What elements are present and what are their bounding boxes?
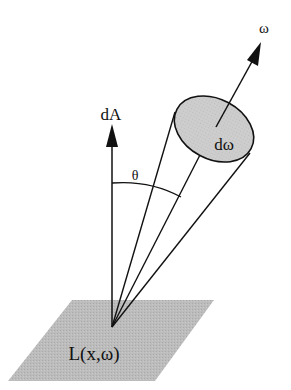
solid-angle-label: dω (214, 135, 234, 154)
arrowhead-icon (247, 42, 261, 66)
solid-angle-disk (163, 83, 265, 175)
angle-label: θ (132, 168, 139, 183)
radiance-diagram: dA θ dω ω L(x,ω) (0, 0, 291, 390)
direction-label: ω (259, 20, 269, 36)
surface-patch (8, 300, 214, 381)
normal-label: dA (101, 105, 123, 124)
angle-arc (112, 183, 181, 197)
radiance-label: L(x,ω) (68, 343, 119, 365)
arrowhead-icon (106, 124, 118, 147)
normal-arrow (106, 124, 118, 327)
